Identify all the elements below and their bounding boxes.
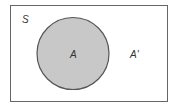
- universal-set-label: S: [22, 15, 29, 25]
- set-a-label: A: [70, 50, 77, 60]
- complement-label: A': [130, 50, 139, 60]
